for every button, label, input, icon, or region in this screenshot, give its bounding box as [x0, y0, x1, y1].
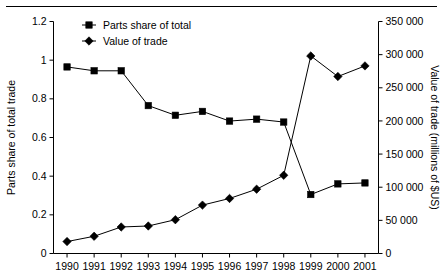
- right-axis-tick-label: 0: [386, 247, 392, 259]
- left-axis-title: Parts share of total trade: [5, 80, 17, 195]
- data-point-diamond: [117, 223, 125, 231]
- data-point-square: [145, 102, 151, 108]
- right-axis-tick-label: 350 000: [386, 15, 424, 27]
- left-axis-tick-label: 0.8: [32, 92, 47, 104]
- x-axis-tick-label: 1994: [164, 260, 188, 272]
- data-point-diamond: [144, 222, 152, 230]
- data-point-diamond: [307, 52, 315, 60]
- x-axis-tick-label: 1996: [218, 260, 242, 272]
- data-point-square: [64, 64, 70, 70]
- data-point-square: [253, 116, 259, 122]
- legend-label-diamond: Value of trade: [103, 35, 168, 47]
- data-point-square: [308, 191, 314, 197]
- x-axis-tick-label: 1997: [245, 260, 269, 272]
- legend-marker-diamond: [85, 37, 93, 45]
- data-point-square: [118, 68, 124, 74]
- left-axis-tick-label: 0.4: [32, 170, 47, 182]
- series-line-square: [67, 67, 365, 195]
- data-point-square: [91, 68, 97, 74]
- data-point-diamond: [361, 62, 369, 70]
- left-axis-tick-label: 0: [41, 247, 47, 259]
- x-axis-tick-label: 1999: [299, 260, 323, 272]
- chart-figure: 00.20.40.60.811.2050 000100 000150 00020…: [0, 0, 443, 279]
- data-point-diamond: [198, 201, 206, 209]
- series-line-diamond: [67, 56, 365, 242]
- legend-label-square: Parts share of total: [103, 19, 191, 31]
- x-axis-tick-label: 1991: [82, 260, 106, 272]
- data-point-diamond: [225, 194, 233, 202]
- x-axis-tick-label: 1998: [272, 260, 296, 272]
- data-point-square: [199, 108, 205, 114]
- right-axis-tick-label: 150 000: [386, 148, 424, 160]
- left-axis-tick-label: 1: [41, 54, 47, 66]
- data-point-square: [172, 112, 178, 118]
- data-point-diamond: [171, 215, 179, 223]
- data-point-square: [281, 119, 287, 125]
- right-axis-tick-label: 100 000: [386, 181, 424, 193]
- x-axis-tick-label: 1990: [55, 260, 79, 272]
- left-axis-tick-label: 0.2: [32, 208, 47, 220]
- legend-marker-square: [86, 22, 92, 28]
- x-axis-tick-label: 1995: [191, 260, 215, 272]
- data-point-diamond: [63, 237, 71, 245]
- data-point-square: [335, 181, 341, 187]
- right-axis-tick-label: 300 000: [386, 48, 424, 60]
- right-axis-title: Value of trade (millions of $US): [429, 65, 441, 210]
- x-axis-tick-label: 2000: [326, 260, 350, 272]
- right-axis-tick-label: 250 000: [386, 81, 424, 93]
- line-chart-canvas: 00.20.40.60.811.2050 000100 000150 00020…: [0, 0, 443, 279]
- left-axis-tick-label: 0.6: [32, 131, 47, 143]
- x-axis-tick-label: 1992: [110, 260, 134, 272]
- data-point-diamond: [334, 72, 342, 80]
- data-point-square: [362, 180, 368, 186]
- x-axis-tick-label: 1993: [137, 260, 161, 272]
- right-axis-tick-label: 200 000: [386, 115, 424, 127]
- x-axis-tick-label: 2001: [353, 260, 377, 272]
- data-point-diamond: [90, 232, 98, 240]
- left-axis-tick-label: 1.2: [32, 15, 47, 27]
- data-point-diamond: [252, 185, 260, 193]
- right-axis-tick-label: 50 000: [386, 214, 418, 226]
- data-point-square: [226, 118, 232, 124]
- data-point-diamond: [280, 171, 288, 179]
